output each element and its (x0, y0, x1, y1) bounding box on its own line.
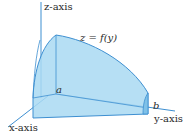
surface-label: z = f(y) (79, 32, 117, 43)
a-label: a (56, 84, 62, 95)
z-axis-label: z-axis (44, 1, 73, 12)
solid-diagram: z-axis z = f(y) a b x-axis y-axis (0, 0, 192, 139)
x-axis-label: x-axis (9, 122, 38, 133)
b-label: b (153, 100, 159, 111)
y-axis-label: y-axis (153, 113, 183, 124)
